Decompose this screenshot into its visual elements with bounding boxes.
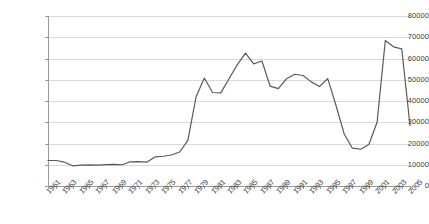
y-axis-tick-label: 50000 [385, 76, 429, 84]
gridline [48, 80, 410, 81]
plot-area [48, 16, 410, 186]
y-axis-tick-label: 80000 [385, 12, 429, 20]
y-axis-tick-mark [45, 16, 48, 17]
y-axis-tick-label: 40000 [385, 97, 429, 105]
y-axis-tick-mark [45, 59, 48, 60]
gridline [48, 165, 410, 166]
y-axis-tick-mark [45, 37, 48, 38]
gridline [48, 37, 410, 38]
gridline [48, 16, 410, 17]
y-axis-tick-mark [45, 165, 48, 166]
y-axis-tick-label: 10000 [385, 161, 429, 169]
gridline [48, 144, 410, 145]
y-axis-tick-label: 30000 [385, 118, 429, 126]
line-chart: 0100002000030000400005000060000700008000… [0, 0, 429, 224]
y-axis-tick-mark [45, 80, 48, 81]
y-axis-line [48, 16, 49, 187]
y-axis-tick-label: 20000 [385, 140, 429, 148]
gridline [48, 101, 410, 102]
gridline [48, 122, 410, 123]
y-axis-tick-label: 60000 [385, 55, 429, 63]
y-axis-tick-mark [45, 122, 48, 123]
gridline [48, 59, 410, 60]
y-axis-tick-label: 70000 [385, 33, 429, 41]
y-axis-tick-mark [45, 101, 48, 102]
y-axis-tick-mark [45, 144, 48, 145]
